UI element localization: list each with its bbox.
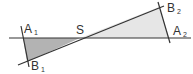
geometry-diagram: A1 B1 S B2 A2 (0, 0, 193, 74)
label-a1: A1 (24, 22, 38, 36)
label-s: S (76, 23, 84, 37)
label-a2: A2 (173, 24, 187, 38)
label-b1: B1 (31, 59, 45, 73)
label-b2: B2 (167, 1, 181, 15)
